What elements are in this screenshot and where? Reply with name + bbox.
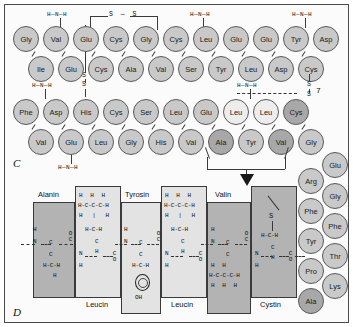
peptide-bond-1 <box>41 244 51 245</box>
atom-ala-ch3: H-C-H <box>43 262 60 269</box>
atom-leu2-ch2: H-C-H <box>171 226 188 233</box>
atom-leu1-htop: H H H <box>79 192 107 199</box>
amine-label-r4: H—N—H <box>58 164 78 171</box>
residue-r2-0[interactable]: Ile <box>28 56 54 82</box>
residue-r2-7[interactable]: Leu <box>238 56 264 82</box>
residue-r3-5[interactable]: Leu <box>163 99 189 125</box>
residue-r2-6[interactable]: Tyr <box>208 56 234 82</box>
peptide-bond-13 <box>261 256 273 257</box>
bond-ss-mid <box>85 79 86 83</box>
residue-r3-9[interactable]: Cys <box>283 99 309 125</box>
residue-r2-3[interactable]: Ala <box>118 56 144 82</box>
atom-cys-ca: C <box>271 244 274 251</box>
bond-ss-right-down <box>157 16 158 30</box>
bond-link-12 <box>61 124 65 130</box>
residue-r1-2[interactable]: Glu <box>73 26 99 52</box>
atom-leu2-chain: H-C-C-C-H <box>164 202 195 209</box>
atom-val-hrow: H H <box>211 262 228 269</box>
benzene-ring-icon <box>135 274 150 291</box>
side-residue-r0[interactable]: Glu <box>322 152 348 178</box>
residue-r3-4[interactable]: Ser <box>133 99 159 125</box>
panel-d: Alanin Leucin Tyrosin Leucin Valin Cysti… <box>5 178 348 323</box>
residue-r3-7[interactable]: Leu <box>223 99 249 125</box>
residue-r1-7[interactable]: Glu <box>223 26 249 52</box>
atom-leu2-nh: H <box>165 262 168 269</box>
atom-leu2-htop: H H H <box>165 192 193 199</box>
residue-r4-1[interactable]: Glu <box>58 129 84 155</box>
bond-link-16 <box>181 124 185 130</box>
atom-tyr-carbonyl: OC <box>155 230 161 252</box>
bond-link-2 <box>61 51 65 57</box>
residue-r2-1[interactable]: Glu <box>58 56 84 82</box>
atom-cys-s: S <box>269 212 273 220</box>
residue-r4-2[interactable]: Leu <box>88 129 114 155</box>
peptide-bond-10 <box>201 244 213 245</box>
residue-r2-5[interactable]: Ser <box>178 56 204 82</box>
residue-r3-8[interactable]: Leu <box>253 99 279 125</box>
residue-r1-10[interactable]: Asp <box>313 26 339 52</box>
bond-link-19 <box>271 124 275 130</box>
residue-r4-5[interactable]: Val <box>178 129 204 155</box>
residue-r1-4[interactable]: Gly <box>133 26 159 52</box>
residue-r3-2[interactable]: His <box>73 99 99 125</box>
bond-link-11 <box>31 124 35 130</box>
peptide-bond-0 <box>21 244 35 245</box>
atom-leu2-h: H <box>181 248 184 255</box>
bond-amine-stem-5 <box>250 89 251 99</box>
peptide-bond-14 <box>279 256 289 257</box>
atom-tyr-cb: C <box>139 251 142 258</box>
bond-cys-right-stem <box>309 74 310 82</box>
residue-r4-4[interactable]: His <box>148 129 174 155</box>
residue-r1-9[interactable]: Tyr <box>283 26 309 52</box>
residue-r1-3[interactable]: Cys <box>103 26 129 52</box>
peptide-bond-11 <box>218 244 228 245</box>
residue-r3-1[interactable]: Asp <box>43 99 69 125</box>
atom-leu2-hmid: H | H <box>165 212 198 219</box>
residue-label-alanin: Alanin <box>38 190 59 199</box>
atom-val-carbonyl: OC <box>243 230 249 252</box>
dash-bracket-top <box>237 93 297 94</box>
residue-r2-4[interactable]: Val <box>148 56 174 82</box>
residue-r1-0[interactable]: Gly <box>13 26 39 52</box>
atom-leu2-n: N <box>165 250 168 257</box>
atom-cys-carbonyl: CO <box>287 250 293 272</box>
bond-link-6 <box>181 51 185 57</box>
atom-tyr-oh: OH <box>135 294 142 301</box>
residue-r1-5[interactable]: Cys <box>163 26 189 52</box>
annotation-seven: 7 <box>316 86 321 95</box>
residue-r1-8[interactable]: Glu <box>253 26 279 52</box>
residue-r2-8[interactable]: Asp <box>268 56 294 82</box>
bond-cys-s-c <box>272 221 273 231</box>
atom-leu1-h: H <box>95 248 98 255</box>
residue-r3-3[interactable]: Cys <box>103 99 129 125</box>
residue-r3-6[interactable]: Glu <box>193 99 219 125</box>
atom-val-chain: H-C-C-C-H <box>209 272 240 279</box>
peptide-bond-4 <box>103 256 113 257</box>
residue-r4-8[interactable]: Val <box>268 129 294 155</box>
bond-link-1 <box>31 51 35 57</box>
bond-link-5 <box>151 51 155 57</box>
panel-c: H—N—H H—N—H H—N—H S — S S S Gly Val Glu … <box>5 5 348 185</box>
atom-leu1-carbonyl: CO <box>111 250 117 272</box>
atom-ala-h2: H <box>53 272 56 279</box>
residue-r1-6[interactable]: Leu <box>193 26 219 52</box>
residue-r2-2[interactable]: Cys <box>88 56 114 82</box>
residue-r4-0[interactable]: Val <box>28 129 54 155</box>
residue-r3-0[interactable]: Phe <box>13 99 39 125</box>
bond-ss-right <box>130 16 157 17</box>
residue-r4-6[interactable]: Ala <box>208 129 234 155</box>
panel-c-letter: C <box>13 157 20 169</box>
residue-label-tyrosin: Tyrosin <box>125 190 149 199</box>
peptide-bond-2 <box>59 244 73 245</box>
panel-d-letter: D <box>13 306 21 318</box>
residue-r4-7[interactable]: Tyr <box>238 129 264 155</box>
sulfur-label-d: S <box>307 91 311 98</box>
residue-box-valin[interactable] <box>207 202 251 314</box>
residue-r2-9[interactable]: Cys <box>298 56 324 82</box>
residue-r1-1[interactable]: Val <box>43 26 69 52</box>
bond-link-8 <box>241 51 245 57</box>
protein-structure-figure: H—N—H H—N—H H—N—H S — S S S Gly Val Glu … <box>0 0 353 327</box>
residue-r4-3[interactable]: Gly <box>118 129 144 155</box>
atom-cys-nh: H <box>255 262 258 269</box>
peptide-bond-6 <box>131 244 141 245</box>
